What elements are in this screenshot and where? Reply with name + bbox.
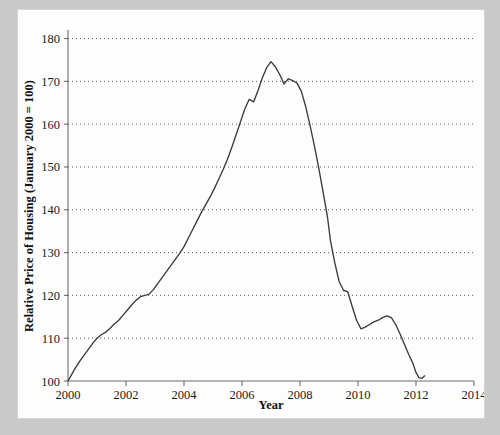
y-tick-label-130: 130 bbox=[41, 246, 60, 260]
x-tick-label-2014: 2014 bbox=[462, 388, 485, 402]
gridlines-group bbox=[68, 39, 474, 339]
x-tick-label-2002: 2002 bbox=[114, 388, 139, 402]
y-tick-marks-group bbox=[64, 39, 68, 381]
y-tick-label-160: 160 bbox=[41, 118, 60, 132]
housing-price-line-chart: 100110120130140150160170180 200020022004… bbox=[18, 10, 484, 418]
y-axis-title: Relative Price of Housing (January 2000 … bbox=[22, 80, 36, 332]
x-axis-title: Year bbox=[259, 398, 284, 412]
y-tick-label-170: 170 bbox=[41, 75, 60, 89]
x-tick-label-2004: 2004 bbox=[172, 388, 198, 402]
y-tick-label-120: 120 bbox=[41, 289, 60, 303]
x-tick-label-2006: 2006 bbox=[230, 388, 255, 402]
housing-price-series-line bbox=[68, 62, 425, 381]
y-tick-label-110: 110 bbox=[42, 332, 60, 346]
y-tick-label-140: 140 bbox=[41, 203, 60, 217]
y-tick-label-180: 180 bbox=[41, 32, 60, 46]
x-tick-marks-group bbox=[68, 381, 474, 386]
y-tick-label-150: 150 bbox=[41, 160, 60, 174]
y-tick-label-100: 100 bbox=[41, 375, 60, 389]
figure-panel: 100110120130140150160170180 200020022004… bbox=[18, 10, 484, 418]
y-tick-labels-group: 100110120130140150160170180 bbox=[41, 32, 60, 388]
x-tick-label-2008: 2008 bbox=[288, 388, 313, 402]
x-tick-label-2012: 2012 bbox=[404, 388, 429, 402]
x-tick-label-2000: 2000 bbox=[56, 388, 81, 402]
x-tick-label-2010: 2010 bbox=[346, 388, 371, 402]
